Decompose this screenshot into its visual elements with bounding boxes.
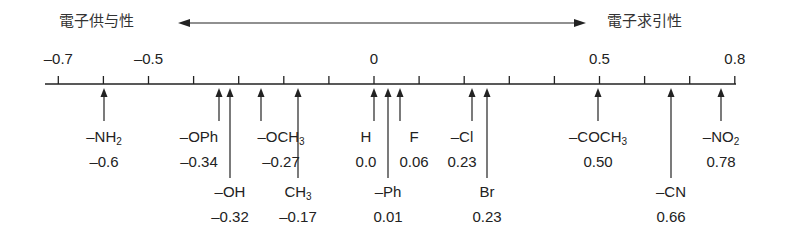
substituent-sigma-value: –0.32 [211,208,249,225]
substituent-sigma-value: 0.23 [447,153,476,170]
arrow-head-icon [668,88,675,97]
substituent-formula: CH [284,183,306,200]
substituent-name: –NO2 [703,128,739,145]
double-headed-arrow-icon [178,19,586,27]
substituent-sigma-value: 0.01 [373,208,402,225]
substituent-formula: –Cl [451,128,474,145]
arrow-head-icon [371,88,378,97]
substituent-sigma-value: 0.50 [583,153,612,170]
arrow-head-icon [101,88,108,97]
sigma-scale-diagram [0,0,786,240]
arrow-head-icon [469,88,476,97]
arrow-head-icon [258,88,265,97]
substituent-name: CH3 [284,183,311,200]
substituent-name: –Ph [375,183,402,200]
substituent-formula: –OPh [180,128,218,145]
axis-tick-label: –0.5 [134,50,163,67]
arrow-head-icon [595,88,602,97]
arrow-head-icon [484,88,491,97]
formula-subscript: 2 [734,136,740,147]
substituent-name: –OH [215,183,246,200]
arrow-head-icon [227,88,234,97]
substituent-sigma-value: –0.6 [89,153,118,170]
arrow-head-icon [397,88,404,97]
substituent-formula: –OCH [257,128,299,145]
substituent-formula: –NO [703,128,734,145]
substituent-name: H [361,128,372,145]
substituent-sigma-value: 0.06 [399,153,428,170]
substituent-formula: Br [480,183,495,200]
substituent-name: –OPh [180,128,218,145]
arrow-head-icon [216,88,223,97]
substituent-name: Br [480,183,495,200]
substituent-name: F [409,128,418,145]
substituent-formula: H [361,128,372,145]
substituent-formula: –CN [656,183,686,200]
substituent-sigma-value: 0.0 [356,153,377,170]
substituent-name: –COCH3 [569,128,627,145]
axis-tick-label: 0.5 [589,50,610,67]
substituent-sigma-value: 0.66 [656,208,685,225]
arrow-head-icon [385,88,392,97]
substituent-name: –CN [656,183,686,200]
substituent-name: –NH2 [86,128,122,145]
substituent-formula: –OH [215,183,246,200]
substituent-name: –Cl [451,128,474,145]
formula-subscript: 3 [306,191,312,202]
axis-tick-label: 0.8 [724,50,745,67]
axis-tick-label: –0.7 [44,50,73,67]
substituent-sigma-value: –0.27 [262,153,300,170]
axis-tick-label: 0 [370,50,378,67]
arrow-head-icon [718,88,725,97]
substituent-formula: –NH [86,128,116,145]
substituent-sigma-value: –0.34 [180,153,218,170]
formula-subscript: 3 [621,136,627,147]
substituent-formula: –COCH [569,128,622,145]
substituent-sigma-value: –0.17 [279,208,317,225]
formula-subscript: 2 [116,136,122,147]
substituent-formula: –Ph [375,183,402,200]
arrow-head-icon [295,88,302,97]
axis-ticks [58,76,735,84]
substituent-sigma-value: 0.23 [472,208,501,225]
substituent-name: –OCH3 [257,128,304,145]
substituent-formula: F [409,128,418,145]
substituent-sigma-value: 0.78 [706,153,735,170]
formula-subscript: 3 [299,136,305,147]
